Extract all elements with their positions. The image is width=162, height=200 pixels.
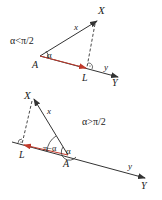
top-diagram: α<π/2 X x A α L y Y — [10, 4, 119, 88]
vector-y-label: y — [127, 161, 132, 171]
point-x-label: X — [23, 89, 32, 101]
point-y-label: Y — [141, 180, 148, 191]
perpendicular-dashed — [22, 101, 32, 144]
point-x-label: X — [97, 4, 106, 16]
vector-y-label: y — [103, 62, 108, 72]
condition-label: α<π/2 — [10, 35, 34, 46]
point-l-label: L — [18, 149, 25, 160]
angle-alpha-label: α — [47, 50, 52, 60]
vector-y-line — [12, 142, 145, 178]
vector-x-label: x — [73, 22, 78, 32]
diagram-svg: α<π/2 X x A α L y Y X x α>π/2 π−α α L A … — [0, 0, 162, 200]
point-a-label: A — [31, 59, 39, 70]
bottom-diagram: X x α>π/2 π−α α L A y Y — [12, 89, 148, 191]
point-l-label: L — [81, 72, 88, 83]
point-a-label: A — [62, 158, 70, 169]
projection-diagram: α<π/2 X x A α L y Y X x α>π/2 π−α α L A … — [0, 0, 162, 200]
angle-alpha-label: α — [66, 146, 71, 156]
perpendicular-dashed — [87, 24, 95, 67]
point-y-label: Y — [112, 77, 119, 88]
vector-x-label: x — [46, 106, 51, 116]
supplement-angle-label: π−α — [43, 143, 57, 153]
condition-label: α>π/2 — [82, 116, 106, 127]
